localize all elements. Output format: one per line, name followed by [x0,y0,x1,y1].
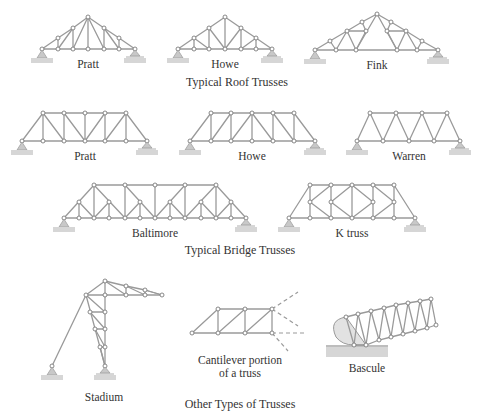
bascule-truss [326,297,438,357]
bridge-baltimore-truss [53,183,257,232]
caption-roof-trusses: Typical Roof Trusses [186,75,288,90]
bridge-k-truss [278,183,426,232]
label-roof-howe: Howe [211,58,238,71]
roof-pratt-truss [31,15,146,63]
roof-howe-truss [167,15,283,63]
label-bridge-k-truss: K truss [336,227,369,240]
cantilever-truss [190,292,305,351]
label-cantilever-line1: Cantilever portion [198,354,282,367]
stadium-truss [41,279,164,380]
bridge-pratt-truss [11,111,158,155]
bridge-howe-truss [179,111,326,155]
bridge-warren-truss [346,111,471,155]
label-bridge-pratt: Pratt [74,150,96,163]
label-bridge-warren: Warren [392,150,426,163]
label-stadium: Stadium [85,391,123,404]
label-roof-fink: Fink [366,59,387,72]
label-bridge-howe: Howe [238,150,265,163]
roof-fink-truss [304,12,449,64]
label-roof-pratt: Pratt [77,58,99,71]
caption-other-trusses: Other Types of Trusses [185,397,296,412]
truss-diagram-canvas [0,0,479,412]
label-bascule: Bascule [349,362,385,375]
caption-bridge-trusses: Typical Bridge Trusses [185,243,296,258]
label-cantilever: Cantilever portion of a truss [198,354,282,380]
label-cantilever-line2: of a truss [198,367,282,380]
label-bridge-baltimore: Baltimore [132,227,178,240]
